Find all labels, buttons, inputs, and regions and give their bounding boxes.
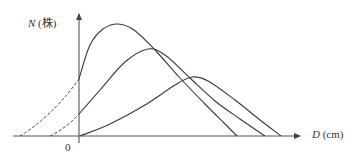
x-axis-unit: (cm) <box>323 128 344 140</box>
origin-label: 0 <box>65 141 71 153</box>
curves-group <box>20 24 281 136</box>
dashed-extension-2 <box>50 114 79 136</box>
distribution-curve-2 <box>79 49 265 136</box>
dashed-extension-1 <box>20 79 79 136</box>
y-axis-label: N (株) <box>28 14 56 30</box>
x-axis-variable: D <box>312 128 320 140</box>
x-axis-label: D (cm) <box>312 128 343 140</box>
y-axis-unit: (株) <box>38 17 56 29</box>
distribution-curve-1 <box>79 24 237 136</box>
y-axis-variable: N <box>28 17 35 29</box>
